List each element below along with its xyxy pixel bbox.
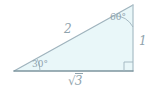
angle-label-top-right: 60° — [110, 13, 126, 22]
radical-expression: √3 — [68, 75, 83, 87]
hypotenuse-length-label: 2 — [64, 23, 72, 35]
geometry-figure: 2 1 √3 30° 60° — [0, 0, 153, 95]
vertical-side-length-label: 1 — [139, 35, 147, 47]
radicand-value: 3 — [75, 73, 84, 88]
angle-label-bottom-left: 30° — [32, 60, 48, 69]
base-side-length-label: √3 — [68, 75, 83, 87]
